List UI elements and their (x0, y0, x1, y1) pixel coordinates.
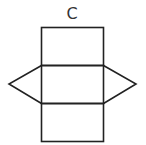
right-triangle-face (104, 66, 137, 104)
bottom-rectangle-face (42, 104, 104, 142)
prism-net-diagram: C (0, 0, 146, 145)
top-rectangle-face (42, 28, 104, 66)
middle-rectangle-face (42, 66, 104, 104)
left-triangle-face (9, 66, 42, 104)
diagram-label: C (66, 4, 77, 23)
